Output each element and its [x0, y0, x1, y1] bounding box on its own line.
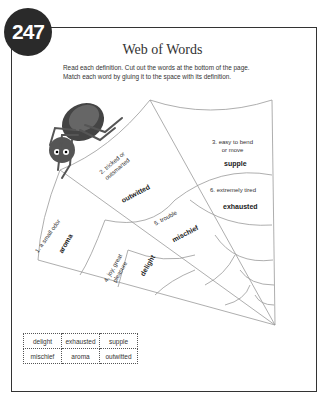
word-bank-cell[interactable]: aroma: [62, 349, 100, 364]
word-bank-cell[interactable]: exhausted: [62, 334, 100, 349]
word-bank: delight exhausted supple mischief aroma …: [23, 333, 138, 364]
word-bank-cell[interactable]: delight: [24, 334, 62, 349]
answer-3: supple: [224, 160, 247, 167]
word-bank-cell[interactable]: mischief: [24, 349, 62, 364]
word-bank-cell[interactable]: supple: [100, 334, 138, 349]
answer-6: exhausted: [223, 203, 258, 210]
word-bank-cell[interactable]: outwitted: [100, 349, 138, 364]
definition-6: 6. extremely tired: [210, 186, 256, 194]
definition-3: 3. easy to bendor move: [212, 138, 253, 154]
